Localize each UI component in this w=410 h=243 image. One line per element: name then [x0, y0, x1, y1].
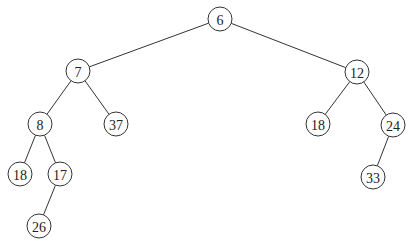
- tree-node: 24: [381, 113, 405, 137]
- node-label: 6: [217, 13, 224, 28]
- tree-nodes: 6712837182418173326: [8, 7, 405, 238]
- node-label: 33: [366, 171, 380, 186]
- tree-node: 18: [306, 112, 330, 136]
- node-label: 12: [350, 66, 364, 81]
- node-label: 26: [32, 220, 46, 235]
- tree-node: 37: [104, 112, 128, 136]
- tree-diagram: 6712837182418173326: [0, 0, 410, 243]
- tree-node: 33: [361, 165, 385, 189]
- edge-n8-n18l: [24, 135, 35, 163]
- tree-node: 26: [27, 214, 51, 238]
- node-label: 18: [13, 168, 27, 183]
- node-label: 7: [75, 65, 82, 80]
- edge-n6-n12: [231, 23, 346, 67]
- tree-node: 17: [48, 162, 72, 186]
- edge-n12-n18r: [325, 82, 350, 115]
- edge-n8-n17: [44, 135, 55, 163]
- edge-n17-n26: [43, 185, 55, 215]
- tree-edges: [24, 23, 388, 215]
- edge-n6-n7: [89, 23, 208, 67]
- tree-node: 8: [28, 112, 52, 136]
- node-label: 17: [53, 168, 67, 183]
- tree-node: 12: [345, 60, 369, 84]
- tree-node: 7: [66, 59, 90, 83]
- edge-n24-n33: [377, 136, 388, 166]
- node-label: 8: [37, 118, 44, 133]
- edge-n7-n8: [47, 81, 71, 114]
- node-label: 24: [386, 119, 400, 134]
- edge-n12-n24: [364, 82, 387, 115]
- edge-n7-n37: [85, 81, 109, 114]
- node-label: 37: [109, 118, 123, 133]
- tree-node: 18: [8, 162, 32, 186]
- node-label: 18: [311, 118, 325, 133]
- tree-node: 6: [208, 7, 232, 31]
